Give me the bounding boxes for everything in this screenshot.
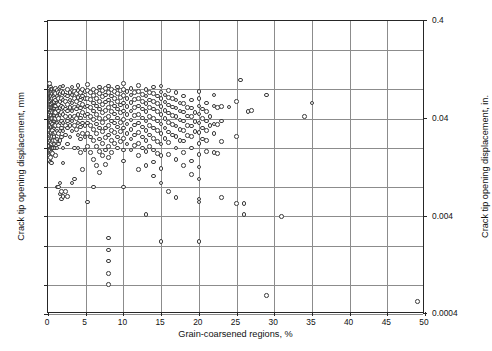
data-point [106,259,111,264]
data-point [181,163,186,168]
y-tickmark-left [44,187,48,188]
data-point [106,271,111,276]
data-point [55,146,60,151]
data-point [65,194,70,199]
data-point [91,138,96,143]
y-tick-label-right: 0.004 [432,211,453,221]
x-tick-label: 20 [193,317,202,327]
data-point [197,96,202,101]
data-point [159,84,164,89]
gridline-vertical [350,21,351,312]
data-point [189,159,194,164]
x-tick-label: 15 [155,317,164,327]
data-point [65,142,70,147]
data-point [144,138,149,143]
x-tick-label: 0 [45,317,50,327]
data-point [197,152,202,157]
data-point [144,163,149,168]
data-point [61,146,66,151]
data-point [125,104,130,109]
data-point [115,146,120,151]
x-tickmark [387,312,388,316]
data-point [144,149,149,154]
data-point [204,109,209,114]
x-tickmark [161,312,162,316]
y-tick-label-right: 0.0004 [432,308,458,318]
data-point [78,150,83,155]
data-point [181,128,186,133]
data-point [166,88,171,93]
data-point [125,142,130,147]
data-point [144,128,149,133]
gridline-horizontal [48,187,423,188]
data-point [85,144,90,149]
data-point [166,152,171,157]
gridline-horizontal [48,246,423,247]
data-point [136,153,141,158]
data-point [106,144,111,149]
y-tickmark-left [44,246,48,247]
x-axis-label: Grain-coarsened regions, % [47,329,424,339]
data-point [91,185,96,190]
data-point [85,200,90,205]
data-point [174,146,179,151]
data-point [197,165,202,170]
data-point [212,131,217,136]
data-point [80,167,85,172]
data-point [234,99,239,104]
data-point [125,131,130,136]
x-tick-label: 45 [382,317,391,327]
gridline-vertical [123,21,124,312]
x-tick-label: 25 [231,317,240,327]
data-point [197,177,202,182]
data-point [215,151,220,156]
gridline-vertical [237,21,238,312]
data-point [197,130,202,135]
data-point [215,122,220,127]
x-tickmark [237,312,238,316]
data-point [197,89,202,94]
data-point [159,166,164,171]
data-point [94,131,99,136]
data-point [242,201,247,206]
y-tick-label-right: 0.4 [432,15,444,25]
gridline-vertical [274,21,275,312]
data-point [238,78,243,83]
y-tick-label-right: 0.04 [432,113,448,123]
data-point [219,139,224,144]
data-point [136,167,141,172]
y-tickmark-right [423,216,427,217]
data-point [106,133,111,138]
data-point [242,212,247,217]
data-point [121,148,126,153]
data-point [310,101,315,106]
gridline-vertical [312,21,313,312]
y-tickmark-left [44,285,48,286]
data-point [121,117,126,122]
data-point [159,181,164,186]
data-point [174,90,179,95]
data-point [264,93,269,98]
data-point [106,248,111,253]
data-point [94,144,99,149]
x-tickmark [274,312,275,316]
data-point [174,195,179,200]
data-point [88,150,93,155]
data-point [219,119,224,124]
data-point [121,185,126,190]
data-point [70,181,75,186]
data-point [136,83,141,88]
x-tick-label: 35 [306,317,315,327]
data-point [151,160,156,165]
data-point [151,174,156,179]
data-point [189,114,194,119]
data-point [144,109,149,114]
data-point [78,137,83,142]
x-tickmark [123,312,124,316]
data-point [136,141,141,146]
x-tick-label: 40 [344,317,353,327]
data-point [129,148,134,153]
data-point [129,118,134,123]
data-point [136,130,141,135]
